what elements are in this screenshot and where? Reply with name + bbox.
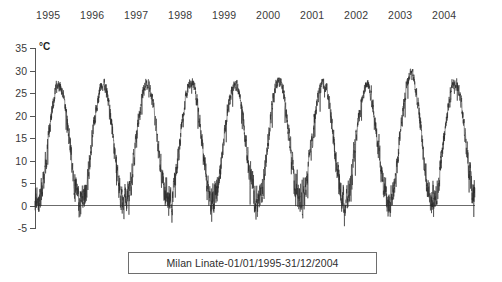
caption-box: Milan Linate-01/01/1995-31/12/2004 xyxy=(128,252,377,274)
temperature-chart: 1995199619971998199920002001200220032004… xyxy=(0,0,502,282)
caption-label: Milan Linate-01/01/1995-31/12/2004 xyxy=(166,257,338,269)
temperature-series-plot xyxy=(0,0,502,282)
daily-temperature-line xyxy=(35,69,475,226)
